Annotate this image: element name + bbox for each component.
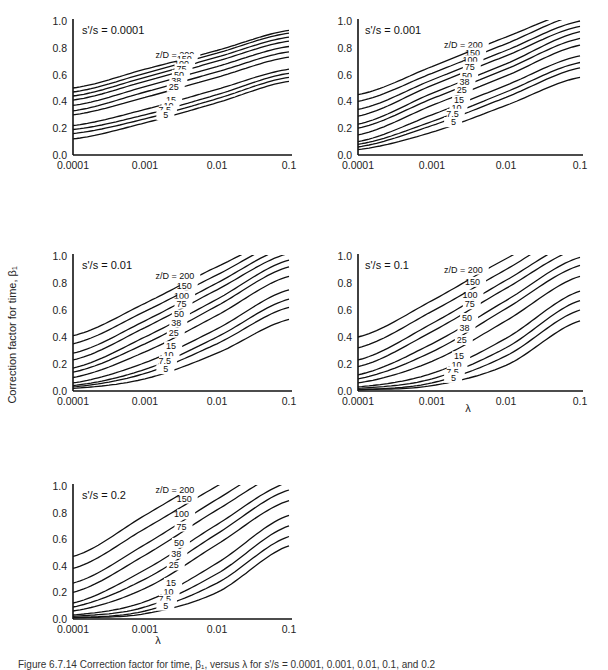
x-tick-label: 0.0001 [342,395,374,407]
panel-title: s'/s = 0.001 [365,24,421,36]
panel-title: s'/s = 0.01 [82,259,132,271]
y-tick-label: 1.0 [52,15,67,27]
y-axis-label-container: Correction factor for time, β₁ [2,250,22,420]
x-tick-label: 0.0001 [342,159,374,171]
y-tick-label: 0.4 [52,331,67,343]
y-tick-label: 0.8 [337,42,352,54]
curve-label: 75 [176,522,186,532]
x-tick-label: 0.1 [573,395,588,407]
x-tick-label: 0.1 [573,159,588,171]
curve-label: 100 [462,290,477,300]
y-tick-label: 0.8 [52,277,67,289]
curve-label: 5 [163,601,168,611]
y-tick-label: 1.0 [52,250,67,262]
curve-label: z/D = 200 [444,265,483,275]
panel-title: s'/s = 0.2 [82,489,126,501]
x-tick-label: 0.01 [207,159,228,171]
y-tick-label: 0.2 [52,358,67,370]
chart-panel-5: 0.00.20.40.60.81.00.00010.0010.010.1s'/s… [52,433,296,635]
y-tick-label: 0.2 [337,122,352,134]
curve-label: 5 [451,373,456,383]
curve-label: 25 [169,328,179,338]
curve-label: 25 [169,82,179,92]
y-tick-label: 0.2 [52,586,67,598]
y-tick-label: 0.6 [52,69,67,81]
x-tick-label: 0.01 [207,395,228,407]
chart-panel-1: 0.00.20.40.60.81.00.00010.0010.010.1s'/s… [52,15,296,171]
x-tick-label: 0.01 [496,395,517,407]
x-tick-label: 0.1 [282,159,297,171]
x-axis-label: λ [155,634,161,646]
curve-label: 75 [465,299,475,309]
panel-title: s'/s = 0.1 [365,259,409,271]
curve-label: 25 [457,335,467,345]
x-tick-label: 0.0001 [57,159,89,171]
y-tick-label: 1.0 [337,250,352,262]
y-tick-label: 0.8 [52,507,67,519]
x-tick-label: 0.0001 [57,623,89,635]
y-tick-label: 0.6 [337,304,352,316]
y-tick-label: 0.2 [52,122,67,134]
curve-label: 5 [163,110,168,120]
y-tick-label: 0.4 [52,95,67,107]
y-tick-label: 0.4 [337,331,352,343]
chart-panel-3: 0.00.20.40.60.81.00.00010.0010.010.1s'/s… [52,236,296,407]
x-tick-label: 0.01 [496,159,517,171]
curve-label: 150 [177,494,192,504]
y-tick-label: 0.6 [337,69,352,81]
y-tick-label: 0.2 [337,358,352,370]
y-tick-label: 0.4 [52,560,67,572]
curve-label: 75 [176,299,186,309]
x-tick-label: 0.001 [419,395,445,407]
figure-caption: Figure 6.7.14 Correction factor for time… [18,659,435,670]
y-tick-label: 0.6 [52,533,67,545]
chart-panel-4: 0.00.20.40.60.81.00.00010.0010.010.1s'/s… [337,222,587,407]
y-tick-label: 0.8 [337,277,352,289]
curve-label: 150 [177,281,192,291]
x-tick-label: 0.001 [419,159,445,171]
panel-title: s'/s = 0.0001 [82,24,144,36]
chart-panel-2: 0.00.20.40.60.81.00.00010.0010.010.1s'/s… [337,10,587,171]
curve-label: 50 [174,538,184,548]
y-tick-label: 0.8 [52,42,67,54]
curve-label: 5 [163,364,168,374]
x-tick-label: 0.0001 [57,395,89,407]
curve-label: 50 [462,313,472,323]
y-tick-label: 0.6 [52,304,67,316]
curve-label: 150 [465,277,480,287]
curve-label: 38 [171,318,181,328]
y-tick-label: 1.0 [337,15,352,27]
y-tick-label: 1.0 [52,480,67,492]
x-tick-label: 0.1 [282,623,297,635]
y-axis-label: Correction factor for time, β₁ [6,266,18,403]
curve-label: 25 [457,85,467,95]
curve-label: 38 [171,549,181,559]
curve-label: 5 [451,117,456,127]
y-tick-label: 0.4 [337,95,352,107]
x-tick-label: 0.01 [207,623,228,635]
curve-label: 100 [174,509,189,519]
x-tick-label: 0.001 [132,395,158,407]
x-axis-label: λ [465,402,471,414]
curve-label: 25 [169,560,179,570]
x-tick-label: 0.1 [282,395,297,407]
x-tick-label: 0.001 [132,159,158,171]
curve-label: 38 [459,323,469,333]
